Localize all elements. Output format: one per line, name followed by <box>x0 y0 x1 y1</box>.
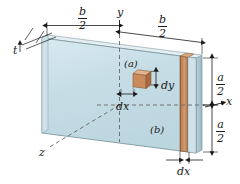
plate-right-side-face <box>196 55 202 153</box>
y-axis-label: y <box>117 7 123 18</box>
a-half-top-label: a 2 <box>216 72 225 97</box>
differential-element-a-cube <box>133 70 151 89</box>
callout-element-a: (a) <box>124 59 138 69</box>
a-half-bottom-numerator: a <box>216 119 225 130</box>
a-half-bottom-denominator: 2 <box>216 133 225 144</box>
callout-element-b: (b) <box>150 125 164 135</box>
b-half-right-denominator: 2 <box>158 28 167 39</box>
b-half-right-numerator: b <box>158 14 167 25</box>
dy-label: dy <box>161 80 174 91</box>
plate-left-edge-face <box>42 35 48 133</box>
diagram-svg <box>0 0 240 184</box>
x-axis-label: x <box>226 96 232 107</box>
a-half-bottom-label: a 2 <box>216 119 225 144</box>
z-axis-label: z <box>39 147 45 158</box>
thickness-label: t <box>13 45 17 56</box>
b-half-left-numerator: b <box>78 6 87 17</box>
b-half-left-label: b 2 <box>78 6 87 31</box>
b-half-right-label: b 2 <box>158 14 167 39</box>
b-half-left-denominator: 2 <box>78 20 87 31</box>
dx-strip-dimension <box>166 151 203 164</box>
plate-front-face <box>42 38 196 153</box>
dx-element-label: dx <box>116 101 129 112</box>
differential-strip-b <box>180 53 196 153</box>
dx-strip-label: dx <box>177 166 190 177</box>
a-half-top-denominator: 2 <box>216 86 225 97</box>
figure-canvas: y x z t b 2 b 2 a 2 a 2 (a) (b) dy dx dx <box>0 0 240 184</box>
a-half-top-numerator: a <box>216 72 225 83</box>
